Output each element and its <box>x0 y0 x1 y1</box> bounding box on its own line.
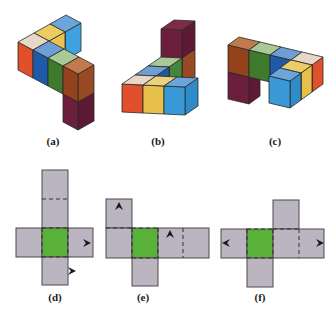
cube-figure-a <box>18 15 94 130</box>
cube-net-f <box>221 200 324 287</box>
figure-label-a: (a) <box>47 135 60 147</box>
figure-label-e: (e) <box>137 291 149 303</box>
net-figures <box>16 170 324 287</box>
figure-label-f: (f) <box>255 291 266 303</box>
cube-net-d <box>16 170 93 285</box>
figure-label-c: (c) <box>269 135 281 147</box>
cube-front-face <box>249 50 270 82</box>
cube-front-face <box>269 76 290 108</box>
net-highlight-face <box>247 229 273 258</box>
cube-front-face <box>143 85 164 114</box>
net-face <box>106 228 132 258</box>
cube-front-face <box>122 84 143 113</box>
net-face <box>16 228 42 257</box>
cube <box>269 68 301 108</box>
cube-front-face <box>164 86 185 115</box>
cube <box>63 57 94 102</box>
arrow-right-icon <box>68 267 76 275</box>
cube <box>161 20 195 58</box>
cube-figure-c <box>228 37 323 108</box>
figure-label-d: (d) <box>48 291 61 303</box>
net-highlight-face <box>42 228 68 257</box>
cube-front-face <box>228 72 249 104</box>
cube-figures <box>18 15 323 130</box>
net-face <box>132 258 158 286</box>
net-highlight-face <box>132 228 158 258</box>
net-face <box>42 257 68 285</box>
cube-front-face <box>228 45 249 77</box>
cube-net-e <box>106 199 209 286</box>
net-face <box>247 258 273 287</box>
cube <box>164 77 198 115</box>
cube-front-face <box>161 29 182 58</box>
net-face <box>273 200 299 229</box>
figure-label-b: (b) <box>151 135 164 147</box>
cube-figure-b <box>122 20 198 115</box>
figure-canvas <box>0 0 335 314</box>
